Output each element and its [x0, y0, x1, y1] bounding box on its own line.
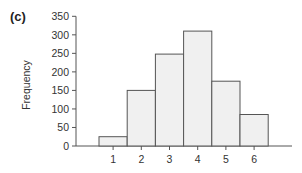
- x-tick-label: 2: [138, 153, 144, 165]
- panel-label: (c): [10, 9, 26, 24]
- y-tick-label: 250: [51, 47, 69, 59]
- x-axis: 123456: [76, 146, 292, 165]
- x-tick-label: 3: [167, 153, 173, 165]
- y-tick-label: 0: [63, 140, 69, 152]
- y-axis-title: Frequency: [20, 59, 32, 109]
- y-axis: 050100150200250300350: [51, 10, 76, 152]
- bar-5: [212, 81, 240, 146]
- bar-4: [184, 31, 212, 146]
- y-tick-label: 100: [51, 103, 69, 115]
- x-tick-label: 4: [195, 153, 201, 165]
- x-tick-label: 5: [223, 153, 229, 165]
- bars: [99, 31, 268, 146]
- bar-3: [155, 54, 183, 146]
- histogram-chart: (c) 050100150200250300350 123456 Frequen…: [0, 0, 302, 173]
- bar-2: [127, 90, 155, 146]
- y-tick-label: 150: [51, 84, 69, 96]
- y-tick-label: 200: [51, 66, 69, 78]
- bar-6: [240, 115, 268, 147]
- bar-1: [99, 137, 127, 146]
- y-tick-label: 350: [51, 10, 69, 22]
- y-tick-label: 50: [57, 121, 69, 133]
- y-tick-label: 300: [51, 29, 69, 41]
- x-tick-label: 6: [251, 153, 257, 165]
- x-tick-label: 1: [110, 153, 116, 165]
